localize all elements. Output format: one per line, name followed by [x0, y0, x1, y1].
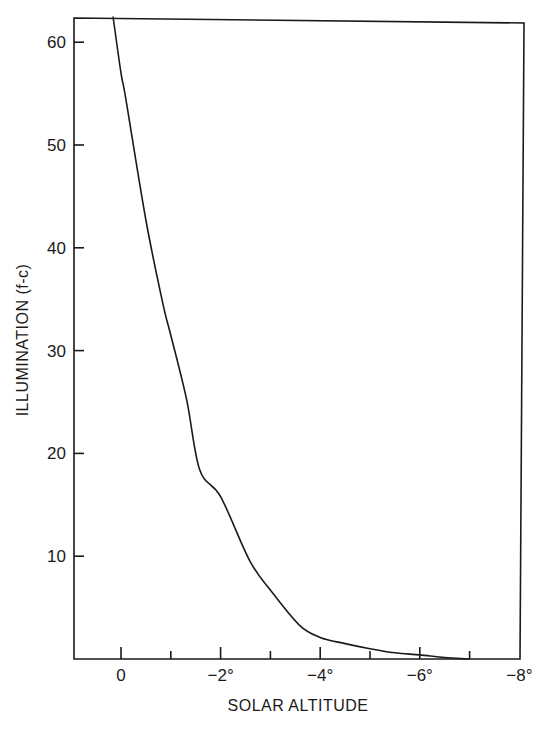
y-axis-title: ILLUMINATION (f-c)	[14, 264, 31, 417]
plot-border	[74, 18, 524, 659]
y-tick-label: 60	[47, 33, 66, 52]
y-tick-label: 10	[47, 547, 66, 566]
chart: 102030405060 0−2°−4°−6°−8° SOLAR ALTITUD…	[0, 0, 541, 733]
y-tick-label: 40	[47, 239, 66, 258]
plot-frame	[74, 18, 524, 659]
x-axis-title: SOLAR ALTITUDE	[228, 697, 369, 714]
x-axis-ticks: 0−2°−4°−6°−8°	[116, 647, 532, 685]
x-tick-label: −4°	[307, 666, 333, 685]
illumination-curve	[113, 17, 470, 660]
y-tick-label: 20	[47, 444, 66, 463]
x-tick-label: 0	[116, 666, 125, 685]
y-axis-ticks: 102030405060	[47, 33, 84, 566]
x-tick-label: −2°	[208, 666, 234, 685]
x-tick-label: −6°	[407, 666, 433, 685]
y-tick-label: 30	[47, 342, 66, 361]
x-tick-label: −8°	[506, 666, 532, 685]
y-tick-label: 50	[47, 136, 66, 155]
